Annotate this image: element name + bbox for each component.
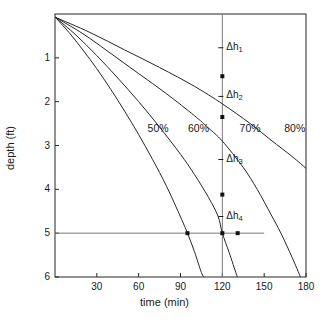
delta-h-3-text: Δh bbox=[226, 153, 238, 164]
curve-80pct bbox=[55, 17, 306, 168]
curve-label-50pct: 50% bbox=[148, 122, 169, 134]
x-tick-label: 90 bbox=[166, 281, 196, 292]
x-tick-label: 150 bbox=[249, 281, 279, 292]
y-axis-label-text: depth (ft) bbox=[4, 101, 16, 195]
x-tick-label: 60 bbox=[124, 281, 154, 292]
delta-h-2-subscript: 2 bbox=[239, 93, 243, 102]
delta-h-1-subscript: 1 bbox=[239, 45, 243, 54]
x-tick-label: 120 bbox=[207, 281, 237, 292]
marker-60pct-at-120 bbox=[220, 115, 224, 119]
curve-label-80pct: 80% bbox=[284, 122, 305, 134]
marker-70pct-at-5ft bbox=[236, 231, 240, 235]
y-axis-label: depth (ft) bbox=[0, 95, 20, 205]
chart-figure: depth (ft) time (min) 306090120150180123… bbox=[0, 0, 329, 322]
delta-h-1: Δh1 bbox=[226, 41, 242, 52]
curve-50pct bbox=[55, 17, 204, 277]
delta-h-2: Δh2 bbox=[226, 89, 242, 100]
marker-60pct-at-5ft bbox=[220, 231, 224, 235]
delta-h-2-text: Δh bbox=[226, 89, 238, 100]
marker-70pct-at-120 bbox=[220, 74, 224, 78]
curve-60pct bbox=[55, 17, 238, 277]
curve-70pct bbox=[55, 17, 300, 277]
delta-h-4-subscript: 4 bbox=[239, 214, 243, 223]
plot-frame bbox=[55, 14, 306, 277]
curve-label-60pct: 60% bbox=[188, 122, 209, 134]
y-tick-label: 6 bbox=[36, 271, 50, 282]
delta-h-3: Δh3 bbox=[226, 153, 242, 164]
y-tick-label: 5 bbox=[36, 227, 50, 238]
x-tick-label: 180 bbox=[291, 281, 321, 292]
y-tick-label: 3 bbox=[36, 140, 50, 151]
delta-h-1-text: Δh bbox=[226, 41, 238, 52]
delta-h-3-subscript: 3 bbox=[239, 157, 243, 166]
delta-h-4: Δh4 bbox=[226, 210, 242, 221]
x-axis-label: time (min) bbox=[0, 296, 329, 308]
y-tick-label: 1 bbox=[36, 52, 50, 63]
curve-label-70pct: 70% bbox=[240, 122, 261, 134]
marker-50pct-at-120 bbox=[220, 193, 224, 197]
y-tick-label: 2 bbox=[36, 96, 50, 107]
x-tick-label: 30 bbox=[82, 281, 112, 292]
marker-50pct-at-5ft bbox=[185, 231, 189, 235]
y-tick-label: 4 bbox=[36, 183, 50, 194]
delta-h-4-text: Δh bbox=[226, 210, 238, 221]
